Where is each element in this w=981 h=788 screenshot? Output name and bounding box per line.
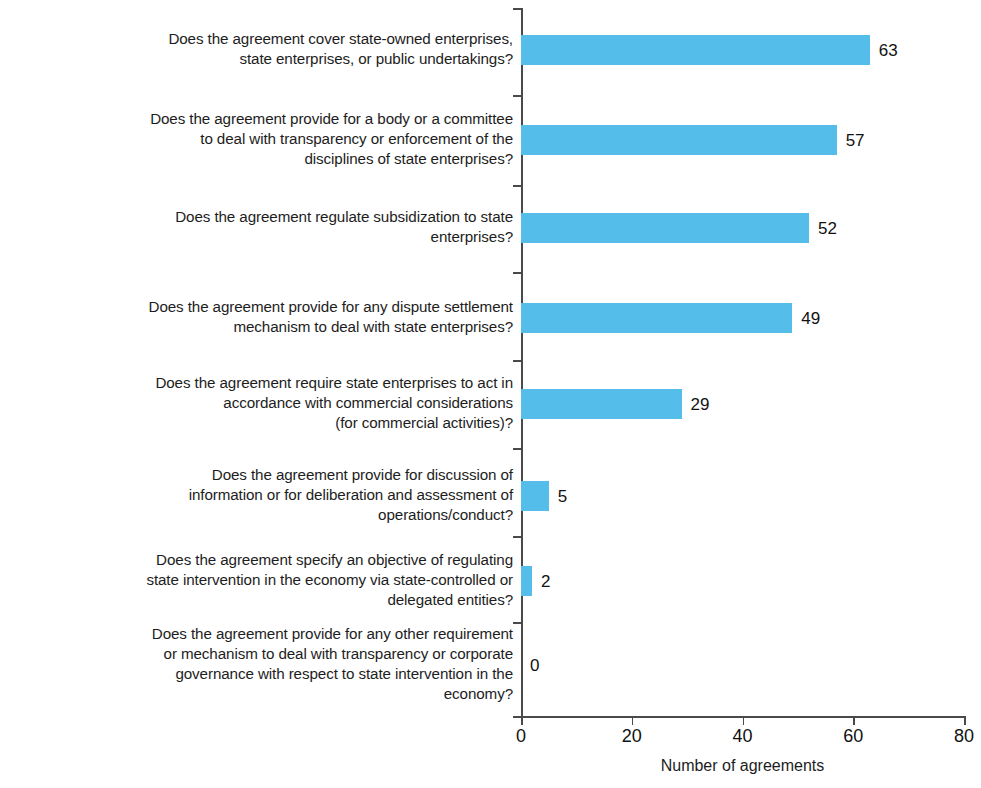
plot-area: 63Does the agreement cover state-owned e… (0, 0, 981, 788)
category-label: Does the agreement specify an objective … (10, 550, 513, 609)
x-axis-tick (521, 716, 523, 725)
y-axis-tick (513, 8, 522, 10)
category-label: Does the agreement provide for a body or… (10, 109, 513, 168)
y-axis-tick (513, 448, 522, 450)
y-axis-tick (513, 95, 522, 97)
bar (521, 303, 792, 333)
bar-value-label: 49 (801, 310, 820, 327)
y-axis-tick (513, 360, 522, 362)
bar-chart: 63Does the agreement cover state-owned e… (0, 0, 981, 788)
x-axis-tick (632, 716, 634, 725)
bar (521, 125, 837, 155)
x-axis-tick-label: 80 (954, 727, 974, 747)
category-label: Does the agreement provide for any dispu… (10, 297, 513, 337)
x-axis-tick-label: 0 (516, 727, 526, 747)
x-axis-tick-label: 40 (732, 727, 752, 747)
bar (521, 213, 809, 243)
category-label: Does the agreement provide for discussio… (10, 465, 513, 524)
bar (521, 481, 549, 511)
x-axis-tick-label: 20 (622, 727, 642, 747)
bar-value-label: 2 (541, 573, 550, 590)
bar-value-label: 57 (846, 132, 865, 149)
y-axis-tick (513, 272, 522, 274)
bar-value-label: 52 (818, 220, 837, 237)
bar (521, 566, 532, 596)
category-label: Does the agreement regulate subsidizatio… (10, 207, 513, 247)
bar (521, 389, 682, 419)
category-label: Does the agreement cover state-owned ent… (10, 29, 513, 69)
category-label: Does the agreement require state enterpr… (10, 373, 513, 432)
category-label: Does the agreement provide for any other… (10, 624, 513, 703)
x-axis-tick (964, 716, 966, 725)
y-axis-tick (513, 622, 522, 624)
y-axis-tick (513, 536, 522, 538)
y-axis-line (521, 8, 523, 716)
x-axis-tick (743, 716, 745, 725)
x-axis-tick-label: 60 (843, 727, 863, 747)
bar-value-label: 0 (530, 657, 539, 674)
y-axis-tick (513, 185, 522, 187)
bar-value-label: 5 (558, 488, 567, 505)
bar-value-label: 63 (879, 42, 898, 59)
x-axis-title: Number of agreements (521, 757, 964, 775)
x-axis-tick (853, 716, 855, 725)
bar (521, 35, 870, 65)
bar-value-label: 29 (691, 396, 710, 413)
